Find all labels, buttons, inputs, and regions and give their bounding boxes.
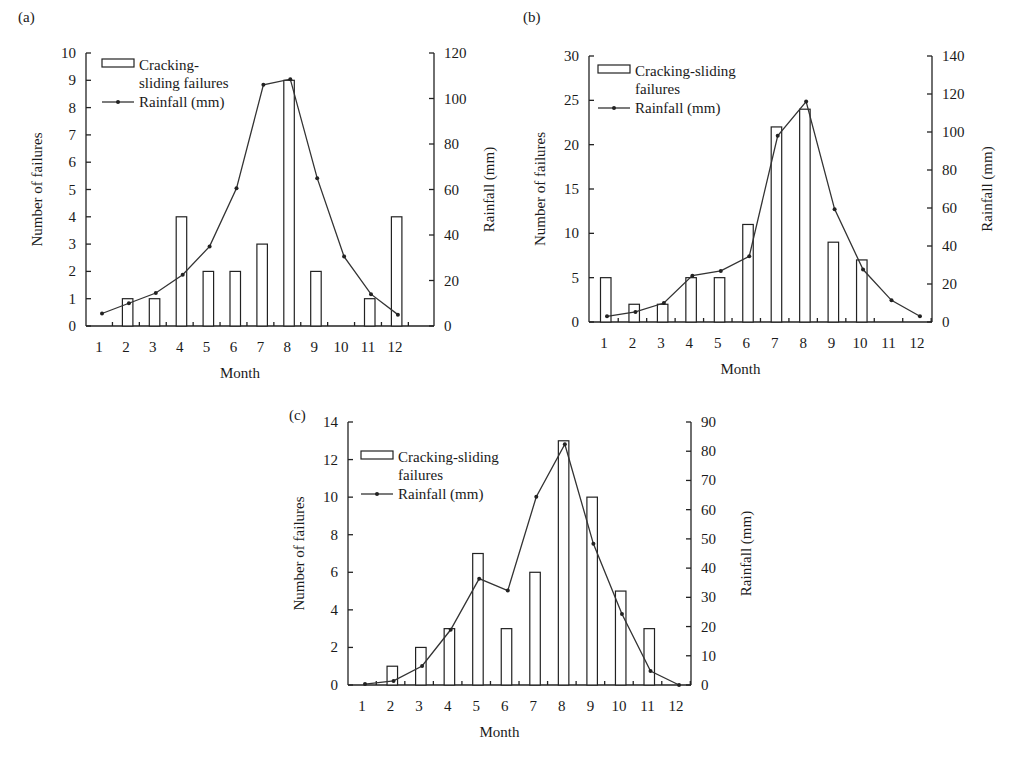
rainfall-point	[649, 669, 653, 673]
y-tick-label: 2	[69, 263, 77, 279]
y2-tick-label: 140	[942, 48, 965, 64]
rainfall-point	[261, 83, 265, 87]
legend-bar-swatch	[361, 451, 393, 459]
y2-tick-label: 30	[701, 589, 716, 605]
x-tick-label: 7	[257, 339, 265, 355]
y-tick-label: 15	[564, 181, 579, 197]
y2-tick-label: 40	[701, 560, 716, 576]
legend-bar-swatch	[102, 59, 134, 67]
rainfall-point	[363, 682, 367, 686]
failure-bar	[657, 304, 668, 322]
rainfall-point	[181, 273, 185, 277]
x-tick-label: 12	[669, 698, 684, 714]
y2-tick-label: 40	[444, 227, 459, 243]
x-tick-label: 4	[444, 698, 452, 714]
x-tick-label: 11	[361, 339, 375, 355]
rainfall-point	[677, 683, 681, 687]
rainfall-point	[662, 301, 666, 305]
y-tick-label: 0	[331, 677, 339, 693]
y-tick-label: 20	[564, 137, 579, 153]
failure-bar	[743, 224, 754, 322]
failure-bar	[800, 109, 811, 322]
x-tick-label: 10	[334, 339, 349, 355]
y-tick-label: 5	[69, 182, 77, 198]
y2-tick-label: 20	[701, 619, 716, 635]
y-axis-title: Number of failures	[291, 496, 307, 610]
rainfall-point	[369, 292, 373, 296]
y-tick-label: 0	[572, 314, 580, 330]
y-tick-label: 4	[69, 209, 77, 225]
x-tick-label: 7	[530, 698, 538, 714]
legend-bar-label-2: sliding failures	[139, 75, 229, 91]
rainfall-point	[506, 589, 510, 593]
rainfall-point	[127, 301, 131, 305]
x-tick-label: 4	[686, 335, 694, 351]
rainfall-point	[591, 542, 595, 546]
rainfall-point	[563, 442, 567, 446]
rainfall-point	[833, 207, 837, 211]
rainfall-point	[605, 314, 609, 318]
y-tick-label: 8	[69, 100, 77, 116]
y-tick-label: 9	[69, 72, 77, 88]
x-tick-label: 6	[230, 339, 238, 355]
x-tick-label: 10	[611, 698, 626, 714]
rainfall-point	[100, 311, 104, 315]
rainfall-point	[633, 310, 637, 314]
rainfall-point	[235, 186, 239, 190]
rainfall-point	[392, 679, 396, 683]
y-tick-label: 1	[69, 291, 77, 307]
y2-tick-label: 100	[942, 124, 965, 140]
x-tick-label: 7	[771, 335, 779, 351]
x-axis-title: Month	[720, 361, 761, 377]
failure-bar	[284, 80, 295, 326]
y2-tick-label: 80	[444, 136, 459, 152]
chart-panel-b: (b)0510152025300204060801001201401234567…	[523, 9, 996, 377]
y2-tick-label: 100	[444, 91, 467, 107]
y2-tick-label: 20	[444, 273, 459, 289]
failure-bar	[686, 278, 697, 322]
rainfall-point	[208, 244, 212, 248]
x-tick-label: 2	[122, 339, 130, 355]
failure-bar	[365, 299, 376, 326]
panel-label: (b)	[523, 9, 541, 26]
rainfall-point	[804, 100, 808, 104]
failure-bar	[714, 278, 725, 322]
rainfall-point	[719, 269, 723, 273]
failure-bar	[444, 629, 455, 685]
y2-tick-label: 50	[701, 531, 716, 547]
rainfall-point	[776, 134, 780, 138]
rainfall-point	[342, 255, 346, 259]
y2-tick-label: 120	[444, 45, 467, 61]
legend-bar-label: Cracking-	[139, 57, 199, 73]
failure-bar	[615, 591, 626, 685]
y-tick-label: 5	[572, 270, 580, 286]
panel-label: (a)	[18, 9, 35, 26]
y-tick-label: 7	[69, 127, 77, 143]
x-tick-label: 2	[629, 335, 637, 351]
failure-bar	[230, 271, 241, 326]
y2-axis-title: Rainfall (mm)	[738, 511, 755, 596]
rainfall-point	[690, 274, 694, 278]
x-tick-label: 8	[284, 339, 292, 355]
rainfall-point	[890, 298, 894, 302]
y2-tick-label: 20	[942, 276, 957, 292]
rainfall-point	[315, 176, 319, 180]
figure-canvas: (a)0123456789100204060801001201234567891…	[0, 0, 1025, 766]
y-tick-label: 10	[61, 45, 76, 61]
rainfall-point	[396, 313, 400, 317]
y2-tick-label: 0	[942, 314, 950, 330]
x-tick-label: 10	[853, 335, 868, 351]
x-axis-title: Month	[220, 365, 261, 381]
x-tick-label: 9	[828, 335, 836, 351]
failure-bar	[828, 242, 839, 322]
y2-tick-label: 60	[942, 200, 957, 216]
y-tick-label: 10	[564, 225, 579, 241]
x-tick-label: 9	[587, 698, 595, 714]
y-axis-title: Number of failures	[532, 132, 548, 246]
rainfall-point	[420, 664, 424, 668]
y-tick-label: 25	[564, 92, 579, 108]
y-tick-label: 10	[323, 489, 338, 505]
x-tick-label: 8	[799, 335, 807, 351]
failure-bar	[501, 629, 512, 685]
y2-tick-label: 120	[942, 86, 965, 102]
